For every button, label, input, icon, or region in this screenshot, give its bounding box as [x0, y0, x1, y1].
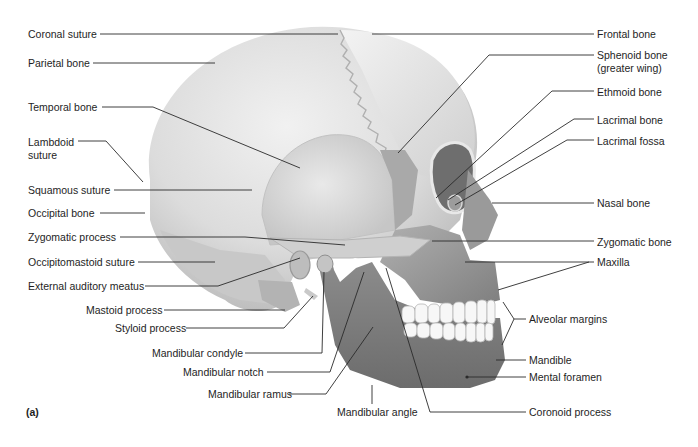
label-coronal-suture: Coronal suture	[28, 28, 97, 40]
label-maxilla: Maxilla	[597, 256, 630, 268]
label-mandibular-ramus: Mandibular ramus	[208, 388, 292, 400]
label-mental-foramen: Mental foramen	[529, 371, 602, 383]
label-mandible: Mandible	[529, 354, 572, 366]
label-nasal-bone: Nasal bone	[597, 197, 650, 209]
label-lambdoid-suture: Lambdoid	[28, 136, 74, 148]
label-temporal-bone: Temporal bone	[28, 101, 97, 113]
lacrimal-fossa-region	[448, 195, 462, 211]
label-occipitomastoid-suture: Occipitomastoid suture	[28, 256, 135, 268]
label-frontal-bone: Frontal bone	[597, 28, 656, 40]
label-squamous-suture: Squamous suture	[28, 184, 110, 196]
label-lacrimal-fossa: Lacrimal fossa	[597, 135, 665, 147]
label-lambdoid-suture-line2: suture	[28, 149, 57, 161]
nasal-region	[462, 170, 498, 250]
label-mandibular-condyle: Mandibular condyle	[152, 347, 243, 359]
panel-label: (a)	[26, 406, 39, 418]
mandibular-condyle-shape	[317, 255, 333, 273]
label-parietal-bone: Parietal bone	[28, 57, 90, 69]
label-alveolar-margins: Alveolar margins	[529, 313, 607, 325]
skull-diagram: Coronal suture Parietal bone Temporal bo…	[0, 0, 698, 447]
label-ethmoid-bone: Ethmoid bone	[597, 86, 662, 98]
label-mastoid-process: Mastoid process	[86, 304, 162, 316]
auditory-meatus	[290, 251, 310, 279]
label-mandibular-notch: Mandibular notch	[183, 366, 264, 378]
label-zygomatic-process: Zygomatic process	[28, 231, 116, 243]
label-lacrimal-bone: Lacrimal bone	[597, 114, 663, 126]
label-occipital-bone: Occipital bone	[28, 207, 95, 219]
label-styloid-process: Styloid process	[115, 322, 186, 334]
label-zygomatic-bone: Zygomatic bone	[597, 236, 672, 248]
label-sphenoid-bone: Sphenoid bone	[597, 49, 668, 61]
label-sphenoid-bone-line2: (greater wing)	[597, 62, 662, 74]
label-mandibular-angle: Mandibular angle	[337, 406, 418, 418]
label-coronoid-process: Coronoid process	[529, 406, 611, 418]
label-external-auditory-meatus: External auditory meatus	[28, 280, 144, 292]
